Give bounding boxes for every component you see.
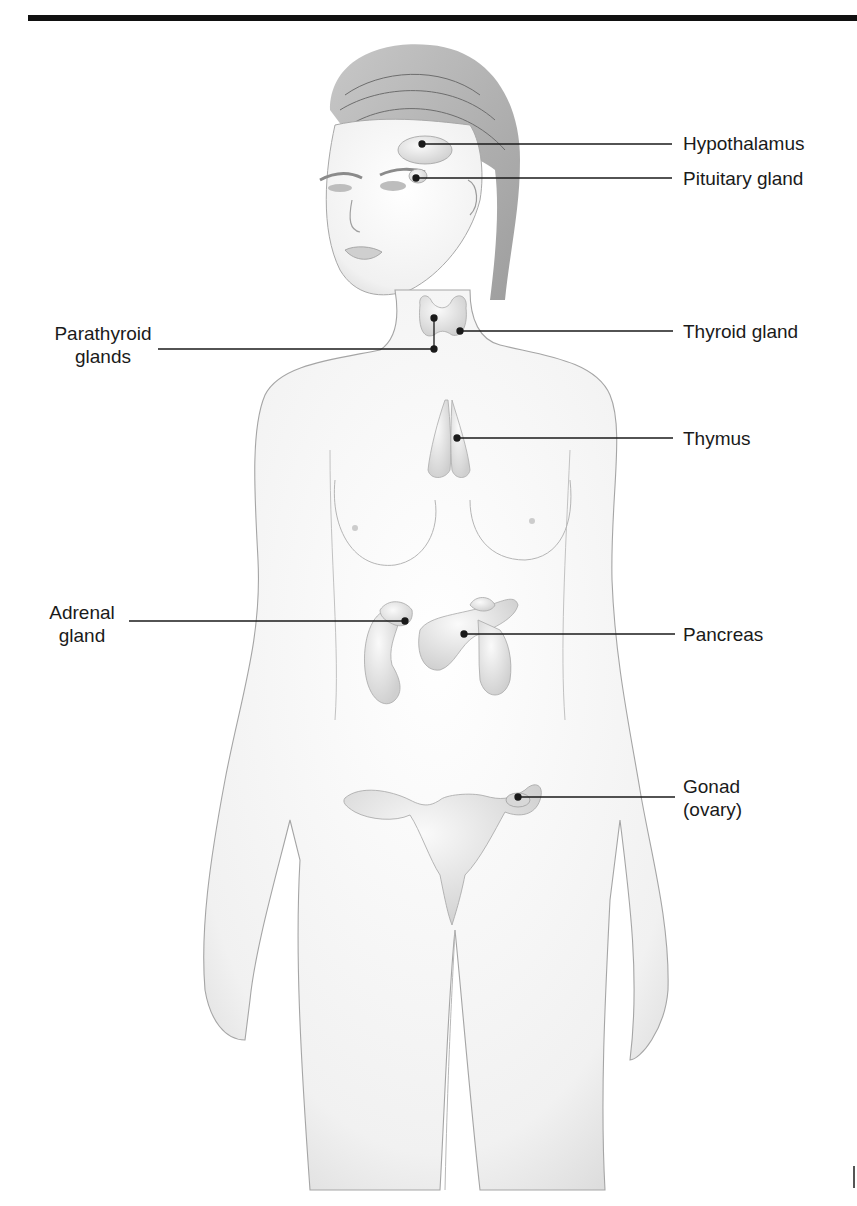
label-gonad-ovary: Gonad (ovary) [683,775,742,821]
label-adrenal-gland: Adrenal gland [42,601,122,647]
label-adrenal-line2: gland [42,624,122,647]
label-pituitary-gland: Pituitary gland [683,167,803,190]
label-pancreas: Pancreas [683,623,763,646]
hypothalamus-gland [398,136,452,164]
label-parathyroid-line1: Parathyroid [43,322,163,345]
label-thymus: Thymus [683,427,751,450]
label-gonad-line2: (ovary) [683,798,742,821]
label-gonad-line1: Gonad [683,775,742,798]
label-adrenal-line1: Adrenal [42,601,122,624]
label-hypothalamus: Hypothalamus [683,132,804,155]
body [204,290,668,1190]
label-parathyroid-glands: Parathyroid glands [43,322,163,368]
label-thyroid-gland: Thyroid gland [683,320,798,343]
page-edge-mark [853,1166,855,1188]
label-parathyroid-line2: glands [43,345,163,368]
